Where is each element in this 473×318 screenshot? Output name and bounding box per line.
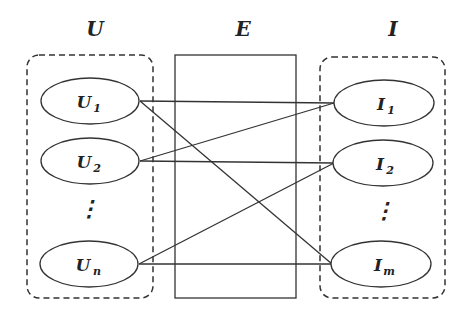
svg-text:U: U	[76, 255, 92, 275]
svg-text:U: U	[77, 92, 93, 112]
edges	[139, 101, 334, 264]
svg-text:I: I	[373, 255, 383, 275]
svg-text:U: U	[77, 152, 93, 172]
user-node-un: U n	[40, 241, 138, 287]
edge-set-container	[175, 55, 296, 298]
edge-un-i2	[139, 163, 334, 264]
group-title-i: I	[387, 17, 398, 41]
svg-text:I: I	[375, 154, 385, 174]
edge-u2-i1	[140, 103, 334, 161]
item-node-im: I m	[331, 241, 431, 287]
edge-u2-i2	[140, 161, 334, 163]
item-ellipsis: ⋮	[373, 197, 395, 223]
edge-u1-im	[140, 101, 332, 264]
user-ellipsis: ⋮	[78, 195, 100, 221]
item-node-i2: I 2	[333, 140, 433, 186]
svg-text:1: 1	[93, 102, 101, 115]
user-node-u2: U 2	[41, 138, 139, 184]
svg-text:m: m	[383, 265, 395, 278]
svg-text:1: 1	[387, 104, 395, 117]
svg-text:I: I	[376, 94, 386, 114]
edge-u1-i1	[140, 101, 334, 103]
svg-text:2: 2	[92, 162, 101, 175]
user-node-u1: U 1	[41, 78, 139, 124]
bipartite-graph-diagram: U E I U 1 U 2 ⋮ U n I 1 I 2 ⋮	[0, 0, 473, 318]
group-title-u: U	[86, 17, 105, 41]
svg-text:2: 2	[385, 164, 394, 177]
group-title-e: E	[234, 17, 251, 41]
item-node-i1: I 1	[334, 80, 434, 126]
svg-text:n: n	[93, 265, 101, 278]
